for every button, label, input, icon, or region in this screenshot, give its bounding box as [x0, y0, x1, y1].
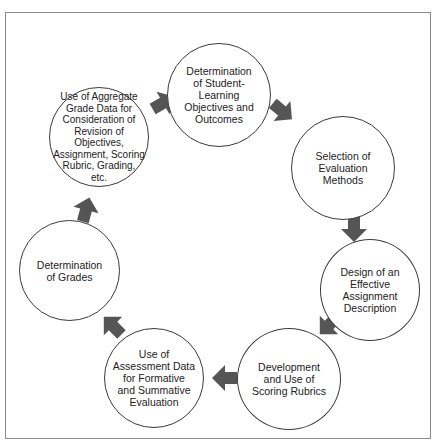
node-use-of-assessment-data: Use of Assessment Data for Formative and… [104, 328, 204, 428]
node-student-learning-objectives: Determination of Student- Learning Objec… [167, 43, 271, 147]
node-selection-of-evaluation-methods: Selection of Evaluation Methods [291, 116, 395, 220]
node-label: Determination of Student- Learning Objec… [184, 65, 253, 125]
arrow-n2-to-n3-icon [341, 217, 367, 242]
node-design-assignment-description: Design of an Effective Assignment Descri… [320, 239, 420, 341]
node-label: Design of an Effective Assignment Descri… [341, 266, 400, 314]
node-determination-of-grades: Determination of Grades [19, 220, 120, 321]
node-development-scoring-rubrics: Development and Use of Scoring Rubrics [237, 328, 341, 430]
node-label: Use of Aggregate Grade Data for Consider… [50, 91, 148, 183]
node-label: Selection of Evaluation Methods [316, 150, 371, 186]
node-label: Use of Assessment Data for Formative and… [113, 348, 195, 408]
node-use-of-aggregate-grade-data: Use of Aggregate Grade Data for Consider… [49, 87, 149, 187]
arrow-n4-to-n5-icon [212, 365, 237, 391]
node-label: Development and Use of Scoring Rubrics [252, 361, 326, 397]
node-label: Determination of Grades [37, 259, 102, 283]
